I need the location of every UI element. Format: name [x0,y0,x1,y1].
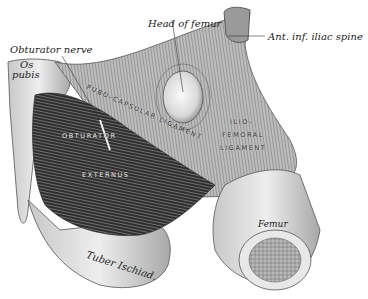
label-head-of-femur: Head of femur [148,19,221,29]
label-obturator-nerve: Obturator nerve [10,45,93,55]
femur-cross-section-marrow [249,238,301,282]
label-ant-inf-iliac-spine: Ant. inf. iliac spine [268,32,363,42]
label-ligament: LIGAMENT [220,145,266,152]
hip-joint-illustration: Head of femur Obturator nerve Ant. inf. … [0,0,368,299]
label-pubis: pubis [12,70,40,80]
label-ilio: ILIO- [230,119,253,126]
ant-inf-iliac-spine [224,7,250,42]
label-externus: EXTERNUS [82,172,130,179]
label-femur: Femur [258,220,288,229]
femoral-head [163,71,203,123]
label-obturator: OBTURATOR [62,133,117,140]
label-femoral: FEMORAL [222,132,264,139]
